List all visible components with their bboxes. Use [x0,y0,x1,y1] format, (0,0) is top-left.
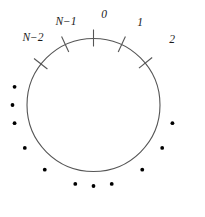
tick-0-label: 0 [101,8,107,20]
ellipsis-dot-5 [73,182,77,186]
circle-index-diagram: N−2N−1012 [0,0,205,217]
ellipsis-dot-4 [43,168,47,172]
tick-1-label: 1 [137,16,143,28]
tick-n-minus-2 [34,59,47,69]
tick-marks-group [34,30,152,69]
ellipsis-dot-8 [140,168,144,172]
tick-2-label: 2 [169,33,175,45]
main-circle [27,39,160,172]
ellipsis-dot-1 [11,103,15,107]
diagram-canvas: N−2N−1012 [0,0,205,217]
ellipsis-dot-2 [13,121,17,125]
tick-n-minus-1-label: N−1 [54,15,76,27]
ellipsis-dot-6 [92,184,96,188]
tick-n-minus-2-label: N−2 [21,31,43,43]
ellipsis-dot-0 [13,85,17,89]
ellipsis-dot-10 [171,121,175,125]
ellipsis-dot-3 [23,146,27,150]
ellipsis-dot-9 [160,146,164,150]
ellipsis-dot-7 [110,182,114,186]
